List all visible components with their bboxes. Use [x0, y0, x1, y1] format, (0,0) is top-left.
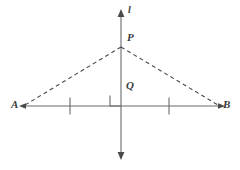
arrowhead-down-icon	[118, 152, 125, 160]
label-point-a: A	[11, 99, 18, 110]
geometry-figure: l P Q A B	[0, 0, 240, 170]
dashed-segment-pb	[121, 47, 218, 105]
dashed-segment-pa	[25, 47, 121, 105]
geometry-canvas	[0, 0, 240, 170]
label-point-b: B	[223, 99, 230, 110]
arrowhead-left-icon	[19, 103, 26, 109]
arrowhead-up-icon	[118, 9, 125, 17]
label-point-p: P	[127, 32, 134, 43]
vertical-line-l	[118, 9, 125, 160]
label-point-q: Q	[126, 80, 134, 91]
right-angle-marker-icon	[110, 96, 121, 107]
horizontal-line-ab	[19, 103, 225, 109]
label-line-l: l	[128, 5, 131, 15]
